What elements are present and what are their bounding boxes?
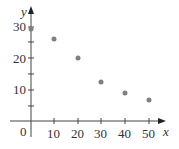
ytick-label-10: 10 — [13, 82, 26, 97]
data-points — [29, 27, 152, 103]
y-axis-label: y — [19, 4, 27, 19]
ytick-label-30: 30 — [13, 19, 26, 34]
scatter-plot: y 30 20 10 0 10 20 30 40 50 x — [0, 0, 179, 149]
data-point — [123, 91, 128, 96]
ytick-label-20: 20 — [13, 51, 26, 66]
y-axis-arrow-icon — [28, 6, 34, 14]
xtick-label-40: 40 — [118, 126, 131, 141]
xtick-label-30: 30 — [94, 126, 107, 141]
x-axis-label: x — [162, 124, 169, 139]
data-point — [29, 27, 34, 32]
data-point — [76, 56, 81, 61]
data-point — [147, 98, 152, 103]
data-point — [52, 37, 57, 42]
xtick-label-20: 20 — [71, 126, 84, 141]
data-point — [99, 80, 104, 85]
xtick-label-50: 50 — [142, 126, 155, 141]
origin-label: 0 — [20, 124, 27, 139]
xtick-label-10: 10 — [47, 126, 60, 141]
